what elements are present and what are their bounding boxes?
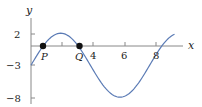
x-tick-label-8: 8 <box>153 50 159 61</box>
x-tick-label-6: 6 <box>121 50 127 61</box>
point-p-label: P <box>40 51 48 62</box>
point-q-label: Q <box>75 51 83 62</box>
x-axis-label: x <box>188 39 195 52</box>
x-tick-label-4: 4 <box>90 50 96 61</box>
point-p <box>40 43 46 49</box>
y-axis-label: y <box>25 4 33 17</box>
point-q <box>76 43 82 49</box>
y-tick-label-2: 2 <box>14 29 20 40</box>
y-tick-label-m8: −8 <box>6 93 21 104</box>
chart: y x 2 −3 −8 P Q 4 6 8 <box>0 0 202 107</box>
y-tick-label-m3: −3 <box>6 60 21 71</box>
curve <box>31 33 175 97</box>
